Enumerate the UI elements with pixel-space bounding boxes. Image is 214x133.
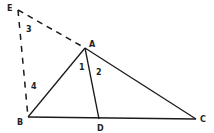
point-label-E: E: [7, 4, 12, 13]
angle-label-3: 3: [26, 25, 32, 34]
geometry-diagram: E A B D C 1 2 3 4: [0, 0, 214, 133]
angle-label-2: 2: [96, 68, 102, 77]
angle-label-1: 1: [79, 63, 85, 72]
angle-label-4: 4: [31, 82, 37, 91]
point-label-D: D: [97, 124, 104, 133]
point-label-C: C: [200, 115, 206, 124]
point-label-A: A: [89, 40, 96, 49]
segment-AC: [85, 48, 196, 119]
segment-AD: [85, 48, 99, 119]
segment-BC: [28, 117, 196, 119]
point-label-B: B: [17, 118, 23, 127]
